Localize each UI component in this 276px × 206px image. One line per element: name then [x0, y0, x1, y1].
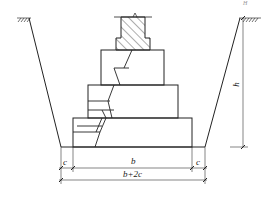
clearance-right-label: c	[196, 158, 200, 167]
step-middle	[88, 85, 178, 118]
clearance-left-label: c	[63, 158, 67, 167]
dimension-ticks	[59, 16, 245, 182]
corner-mark: H	[243, 0, 247, 6]
step-bottom	[73, 118, 192, 147]
height-label: h	[232, 82, 241, 87]
column	[114, 13, 152, 50]
step-top	[101, 50, 164, 85]
dimension-lines	[59, 18, 248, 184]
brick-joints	[73, 50, 132, 147]
base-width-label: b	[131, 157, 136, 166]
foundation-diagram: c b c b+2c h H	[0, 0, 276, 206]
trench-bottom-width-label: b+2c	[123, 170, 142, 179]
